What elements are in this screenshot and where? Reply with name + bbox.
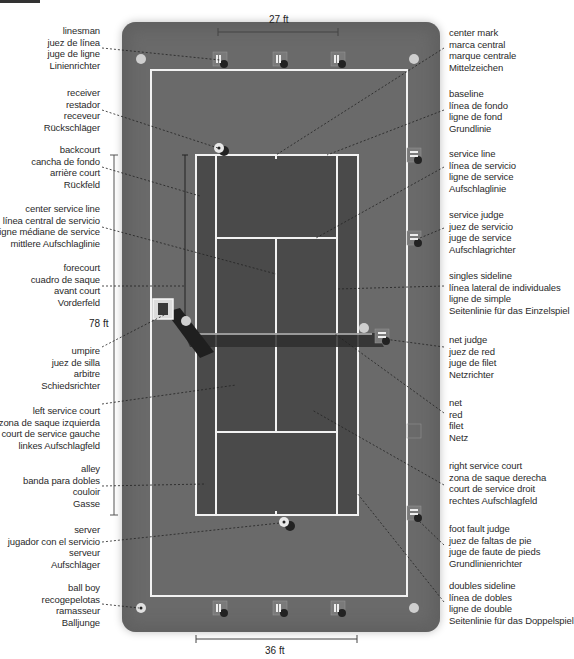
dimension-length-label: 78 ft — [89, 318, 108, 329]
linesman-icon — [273, 52, 288, 68]
net-post-figure — [359, 323, 369, 333]
label-server: serverjugador con el servicioserveurAufs… — [8, 524, 100, 570]
label-baseline: baselinelínea de fondoligne de fondGrund… — [449, 88, 508, 134]
linesman-icon — [213, 52, 228, 68]
label-receiver: receiverrestadorreceveurRückschläger — [44, 87, 100, 133]
net-judge-icon — [375, 329, 390, 345]
label-alley: alleybanda para doblescouloirGasse — [23, 463, 100, 509]
label-forecourt: forecourtcuadro de saqueavant courtVorde… — [31, 262, 100, 308]
label-net-judge: net judgejuez de redjuge de filetNetzric… — [449, 334, 496, 380]
linesman-icon — [213, 601, 228, 617]
label-center-service-line: center service linelínea central de serv… — [0, 203, 100, 249]
linesman-icon — [331, 601, 346, 617]
label-service-line: service linelínea de servicioligne de se… — [449, 148, 516, 194]
label-singles-sideline: singles sidelinelínea lateral de individ… — [449, 270, 569, 316]
empty-judge-box — [407, 424, 421, 438]
label-center-mark: center markmarca centralmarque centraleM… — [449, 27, 516, 73]
label-linesman: linesmanjuez de líneajuge de ligneLinien… — [47, 25, 100, 71]
dimension-top-label: 27 ft — [269, 14, 288, 25]
ball-boy-icon — [409, 54, 419, 64]
label-doubles-sideline: doubles sidelinelínea de doblesligne de … — [449, 580, 574, 626]
foot-fault-judge-icon — [407, 506, 422, 522]
service-judge-icon — [407, 231, 422, 247]
ball-boy-icon — [136, 54, 146, 64]
server-icon — [279, 517, 295, 531]
linesman-icon — [273, 601, 288, 617]
ball-boy-icon — [409, 603, 419, 613]
label-umpire: umpirejuez de sillaarbitreSchiedsrichter — [41, 345, 100, 391]
net-shadow — [184, 333, 384, 347]
label-left-service-court: left service courtzona de saque izquierd… — [0, 405, 100, 451]
label-right-service-court: right service courtzona de saque derecha… — [449, 460, 546, 506]
label-ball-boy: ball boyrecogepelotasramasseurBalljunge — [42, 582, 100, 628]
label-foot-fault-judge: foot fault judgejuez de faltas de piejug… — [449, 523, 540, 569]
label-service-judge: service judgejuez de serviciojuge de ser… — [449, 209, 516, 255]
service-judge-icon — [407, 148, 422, 164]
label-net: netredfiletNetz — [449, 397, 468, 443]
linesman-icon — [331, 52, 346, 68]
label-backcourt: backcourtcancha de fondoarrière courtRüc… — [31, 144, 100, 190]
dimension-bottom-label: 36 ft — [265, 645, 284, 656]
